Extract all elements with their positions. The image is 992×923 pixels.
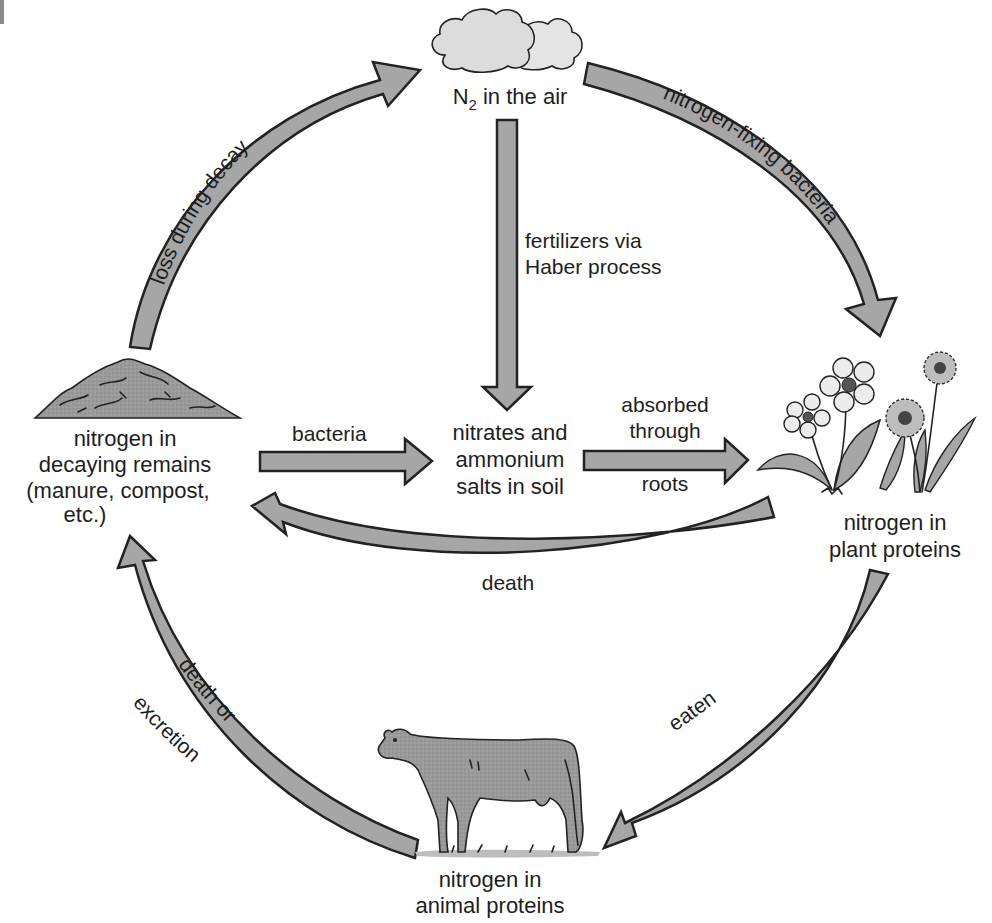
arrow-death	[252, 493, 774, 553]
edge-label-absorbed-line: absorbed	[621, 393, 709, 416]
edge-label-death-or-excretion-line: death or	[174, 653, 241, 726]
edge-label-haber-line: fertilizers via	[525, 229, 642, 252]
edge-label-death: death	[482, 571, 535, 594]
node-plant-proteins: nitrogen in plant proteins	[829, 510, 961, 562]
nitrogen-cycle-diagram: N2 in the air nitrogen in decaying remai…	[0, 0, 992, 923]
edge-label-absorbed-line: roots	[642, 472, 689, 495]
arrow-death-or-excretion	[118, 536, 418, 858]
node-animal-proteins: nitrogen in animal proteins	[415, 867, 564, 918]
edge-label-haber-line: Haber process	[525, 255, 662, 278]
node-soil-line: salts in soil	[456, 474, 564, 499]
node-air-label: N2 in the air	[453, 84, 568, 113]
arrow-loss-during-decay	[130, 62, 420, 349]
edge-label-death-or-excretion-line: excretion	[129, 691, 205, 766]
cloud-icon	[432, 9, 582, 72]
node-animal-proteins-line: nitrogen in	[439, 867, 542, 892]
node-decaying-remains-line: (manure, compost,	[26, 478, 209, 503]
node-decaying-remains: nitrogen in decaying remains (manure, co…	[26, 426, 211, 527]
edge-label-loss-during-decay: loss during decay	[146, 134, 253, 287]
node-air: N2 in the air	[453, 84, 568, 113]
arrow-bacteria	[260, 439, 432, 484]
node-animal-proteins-line: animal proteins	[415, 893, 564, 918]
node-plant-proteins-line: plant proteins	[829, 537, 961, 562]
compost-pile-icon	[35, 359, 240, 418]
edge-label-bacteria: bacteria	[292, 422, 367, 445]
node-decaying-remains-line: etc.)	[64, 502, 107, 527]
node-soil-line: nitrates and	[453, 420, 568, 445]
arrow-eaten	[604, 570, 888, 848]
edge-label-eaten: eaten	[664, 686, 720, 735]
node-plant-proteins-line: nitrogen in	[844, 510, 947, 535]
arrow-haber-process	[483, 120, 531, 410]
node-decaying-remains-line: nitrogen in	[74, 426, 177, 451]
node-decaying-remains-line: decaying remains	[39, 452, 211, 477]
node-soil: nitrates and ammonium salts in soil	[453, 420, 568, 499]
node-soil-line: ammonium	[456, 447, 565, 472]
flowers-icon	[758, 352, 975, 494]
arrow-nitrogen-fixing-bacteria	[584, 63, 896, 336]
edge-label-absorbed-line: through	[629, 419, 700, 442]
